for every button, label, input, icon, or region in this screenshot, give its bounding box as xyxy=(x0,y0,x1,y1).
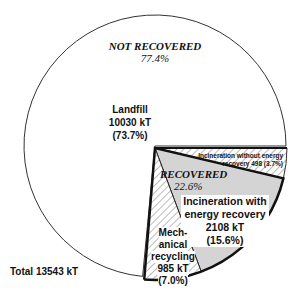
landfill-label: Landfill 10030 kT (73.7%) xyxy=(100,103,160,142)
not-recovered-label: NOT RECOVERED 77.4% xyxy=(95,40,215,64)
not-recovered-title: NOT RECOVERED xyxy=(95,40,215,52)
not-recovered-percent: 77.4% xyxy=(95,52,215,64)
total-label: Total 13543 kT xyxy=(10,265,90,278)
incin-w-line1: Incineration with xyxy=(181,195,269,208)
recycling-line2: anical xyxy=(159,239,187,251)
recycling-line3: recycling xyxy=(151,251,195,263)
mechanical-recycling-label: Mech- anical recycling 985 kT (7.0%) xyxy=(148,227,198,287)
incin-wo-line2: recovery 498 (3.7%) xyxy=(195,160,283,168)
recycling-value: 985 kT xyxy=(157,263,188,275)
recycling-percent: (7.0%) xyxy=(158,275,187,287)
incin-w-line2: energy recovery xyxy=(181,208,269,221)
landfill-percent: (73.7%) xyxy=(100,129,160,142)
recovered-title: RECOVERED xyxy=(160,168,240,180)
landfill-name: Landfill xyxy=(100,103,160,116)
recovered-label: RECOVERED 22.6% xyxy=(160,168,240,192)
recovered-percent: 22.6% xyxy=(160,180,240,192)
incineration-without-recovery-label: Incineration without energy recovery 498… xyxy=(195,152,283,168)
incin-wo-line1: Incineration without energy xyxy=(195,152,283,160)
recycling-line1: Mech- xyxy=(159,227,188,239)
landfill-value: 10030 kT xyxy=(100,116,160,129)
